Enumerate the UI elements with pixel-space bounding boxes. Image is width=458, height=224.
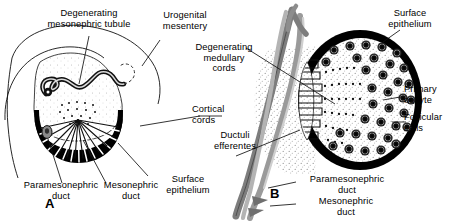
paramesonephric-duct-lumen-a — [45, 128, 49, 134]
panel-a-drawing — [5, 25, 200, 183]
figure-canvas: Degenerating mesonephric tubule Urogenit… — [0, 0, 458, 224]
label-degenerating-mesonephric-tubule: Degenerating mesonephric tubule — [24, 8, 154, 29]
label-follicular-cells: Follicular cells — [404, 112, 458, 133]
panel-letter-b: B — [270, 186, 279, 201]
label-paramesonephric-duct-b: Paramesonephric duct — [290, 174, 404, 195]
label-degenerating-medullary-cords: Degenerating medullary cords — [186, 42, 262, 74]
mesonephric-duct-lumen-a — [47, 91, 50, 94]
label-surface-epithelium-a: Surface epithelium — [156, 174, 220, 195]
label-ductuli-efferentes: Ductuli efferentes — [204, 130, 266, 151]
panel-letter-a: A — [45, 196, 54, 211]
label-primary-oocyte: Primary oocyte — [404, 84, 458, 105]
label-cortical-cords: Cortical cords — [192, 104, 248, 125]
label-mesonephric-duct-b: Mesonephric duct — [296, 196, 396, 217]
label-urogenital-mesentery: Urogenital mesentery — [148, 10, 222, 31]
label-surface-epithelium-b: Surface epithelium — [378, 8, 442, 29]
